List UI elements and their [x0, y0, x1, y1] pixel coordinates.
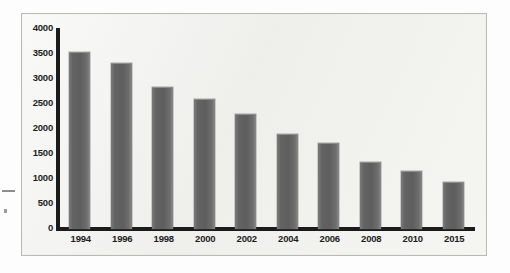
x-tick-label: 2002 [226, 233, 268, 244]
bar-series [60, 28, 475, 229]
bar-2000 [194, 99, 215, 229]
x-tick-label: 2008 [351, 233, 393, 244]
bar-1994 [69, 52, 90, 229]
bar-2002 [235, 114, 256, 229]
bar-slot [309, 28, 351, 229]
bar-slot [434, 28, 476, 229]
x-axis-tick-labels: 1994 1996 1998 2000 2002 2004 2006 2008 … [60, 233, 475, 251]
chart-figure-frame: 4000 3500 3000 2500 2000 1500 1000 500 0 [21, 13, 487, 256]
y-tick-label: 1000 [21, 173, 53, 183]
bar-slot [102, 28, 144, 229]
scan-artifact-speck [4, 209, 7, 213]
bar-1998 [152, 87, 173, 229]
x-tick-label: 1994 [60, 233, 102, 244]
bar-1996 [111, 63, 132, 229]
x-tick-label: 2006 [309, 233, 351, 244]
y-axis-tick-labels: 4000 3500 3000 2500 2000 1500 1000 500 0 [22, 14, 53, 257]
x-tick-label: 2004 [268, 233, 310, 244]
bar-2008 [360, 162, 381, 229]
scan-artifact-dash [2, 190, 15, 192]
x-tick-label: 2010 [392, 233, 434, 244]
x-tick-label: 2000 [185, 233, 227, 244]
y-tick-label: 1500 [21, 148, 53, 158]
bar-slot [226, 28, 268, 229]
y-tick-label: 500 [21, 198, 53, 208]
plot-area: 4000 3500 3000 2500 2000 1500 1000 500 0 [22, 14, 488, 257]
bar-slot [185, 28, 227, 229]
x-tick-label: 1998 [143, 233, 185, 244]
chart-page: 4000 3500 3000 2500 2000 1500 1000 500 0 [0, 0, 510, 273]
y-tick-label: 3500 [21, 48, 53, 58]
x-tick-label: 1996 [102, 233, 144, 244]
bar-slot [392, 28, 434, 229]
bar-2015 [443, 182, 464, 229]
y-tick-label: 0 [21, 223, 53, 233]
y-tick-label: 2000 [21, 123, 53, 133]
bar-2010 [401, 171, 422, 229]
y-tick-label: 2500 [21, 98, 53, 108]
bar-2006 [318, 143, 339, 229]
x-tick-label: 2015 [434, 233, 476, 244]
y-tick-label: 4000 [21, 23, 53, 33]
bar-slot [143, 28, 185, 229]
bar-slot [268, 28, 310, 229]
bar-slot [60, 28, 102, 229]
bar-slot [351, 28, 393, 229]
y-tick-label: 3000 [21, 73, 53, 83]
bar-2004 [277, 134, 298, 229]
